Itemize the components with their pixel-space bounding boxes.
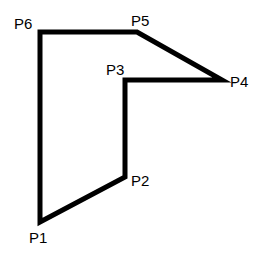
label-p6: P6 xyxy=(14,15,32,32)
polygon-outline xyxy=(40,32,222,222)
label-p1: P1 xyxy=(29,229,47,246)
label-p5: P5 xyxy=(131,12,149,29)
label-p2: P2 xyxy=(131,172,149,189)
point-labels: P1 P2 P3 P4 P5 P6 xyxy=(14,12,248,246)
label-p3: P3 xyxy=(106,61,124,78)
label-p4: P4 xyxy=(230,73,248,90)
polygon-diagram: P1 P2 P3 P4 P5 P6 xyxy=(0,0,267,253)
